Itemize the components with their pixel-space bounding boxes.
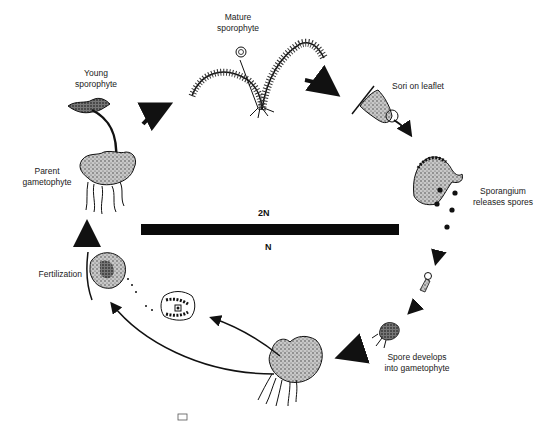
archegonium-illustration xyxy=(161,292,195,321)
arrow-gametophyte-to-archegonium xyxy=(212,318,280,356)
label-line: Parent xyxy=(14,166,80,177)
label-spore-develops: Spore develops into gametophyte xyxy=(372,352,462,374)
arrow-spore-to-prothallus xyxy=(410,306,416,312)
label-mature-sporophyte: Mature sporophyte xyxy=(208,12,268,34)
small-page-icon xyxy=(178,414,187,420)
ploidy-2n-label: 2N xyxy=(258,208,270,218)
label-line: Sori on leaflet xyxy=(392,81,492,92)
label-line: gametophyte xyxy=(14,177,80,188)
spore-5 xyxy=(444,224,449,229)
label-fertilization: Fertilization xyxy=(16,269,82,280)
germinating-spore-illustration xyxy=(420,273,432,293)
label-line: Sporangium xyxy=(463,186,543,197)
label-parent-gametophyte: Parent gametophyte xyxy=(14,166,80,188)
arrow-spore-down xyxy=(436,254,438,262)
sporangium-illustration xyxy=(414,157,463,230)
label-sporangium: Sporangium releases spores xyxy=(463,186,543,208)
parent-gametophyte-illustration xyxy=(80,151,136,214)
arrow-to-gametophyte xyxy=(342,350,362,356)
ploidy-n-label: N xyxy=(265,242,272,252)
sori-on-leaflet-illustration xyxy=(352,86,410,134)
spore-2 xyxy=(452,190,457,195)
label-sori-on-leaflet: Sori on leaflet xyxy=(392,81,492,92)
spore-4 xyxy=(449,207,454,212)
life-cycle-illustrations xyxy=(0,0,555,437)
spore-1 xyxy=(437,187,442,192)
label-young-sporophyte: Young sporophyte xyxy=(66,68,126,90)
young-sporophyte-illustration xyxy=(68,98,116,160)
label-line: Mature xyxy=(208,12,268,23)
label-line: Spore develops xyxy=(372,352,462,363)
label-line: sporophyte xyxy=(208,23,268,34)
sperm-dots xyxy=(127,278,153,311)
arrow-mature-to-sori xyxy=(305,80,334,92)
spore-3 xyxy=(434,201,439,206)
label-line: Fertilization xyxy=(16,269,82,280)
ploidy-divider-bar xyxy=(141,224,399,235)
mature-sporophyte-illustration xyxy=(192,43,324,118)
label-line: into gametophyte xyxy=(372,363,462,374)
label-line: releases spores xyxy=(463,197,543,208)
fertilization-illustration xyxy=(87,252,126,300)
label-line: Young xyxy=(66,68,126,79)
arrow-young-to-mature xyxy=(143,106,166,124)
young-prothallus-illustration xyxy=(372,323,399,348)
label-line: sporophyte xyxy=(66,79,126,90)
